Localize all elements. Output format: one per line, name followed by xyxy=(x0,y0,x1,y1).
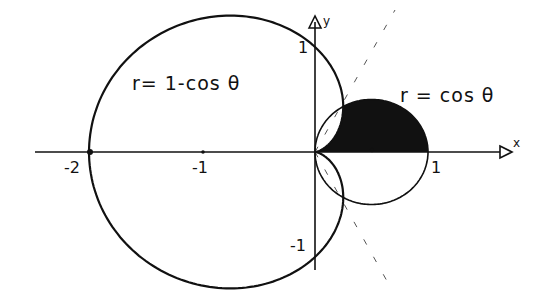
circle-label: r = cos θ xyxy=(400,84,494,106)
shaded-region xyxy=(315,100,428,153)
x-tick-label-minus1: -1 xyxy=(192,158,208,177)
y-tick-label-1: 1 xyxy=(298,38,308,57)
ray-minus-pi-over-3 xyxy=(315,152,392,290)
y-tick-label-minus1: -1 xyxy=(290,236,306,255)
x-tick-label-minus2: -2 xyxy=(64,158,80,177)
tick-x-minus1 xyxy=(201,150,205,154)
x-axis-label: x xyxy=(513,136,520,150)
x-tick-label-1: 1 xyxy=(431,158,441,177)
polar-plot xyxy=(0,0,536,296)
tick-x-half xyxy=(370,148,374,152)
x-axis-arrow-icon xyxy=(500,146,512,158)
tick-x-minus2 xyxy=(87,149,93,155)
y-axis-label: y xyxy=(323,14,330,28)
cardioid-label: r= 1-cos θ xyxy=(132,72,240,94)
